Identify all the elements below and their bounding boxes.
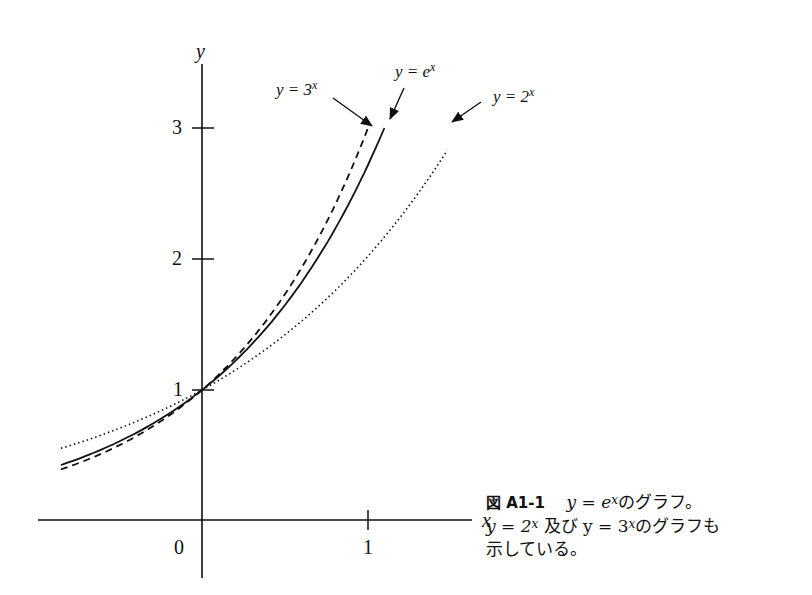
curve-dashed	[61, 128, 368, 470]
arrow-2x	[452, 102, 481, 122]
y-tick-label-3: 3	[172, 116, 182, 139]
annotation-3x: y = 3x	[276, 80, 317, 100]
figure-number: 図 A1-1	[486, 494, 545, 512]
y-axis-label: y	[196, 40, 205, 63]
caption-text-1: のグラフ。	[618, 492, 702, 512]
curve-solid	[61, 128, 385, 465]
caption-eq-2: y = 2	[486, 516, 531, 536]
annotation-2x-exp: x	[529, 85, 534, 99]
caption-eq-1: y = e	[567, 492, 612, 512]
annotation-3x-text: y = 3	[276, 80, 312, 99]
origin-label: 0	[174, 536, 184, 559]
caption-line-1: 図 A1-1 y = exのグラフ。	[486, 491, 720, 515]
annotation-3x-exp: x	[312, 78, 317, 92]
annotation-ex: y = ex	[395, 62, 435, 82]
arrow-ex	[390, 88, 404, 119]
caption-eq-1-exp: x	[611, 493, 618, 507]
curve-dotted	[61, 150, 447, 448]
caption-line-3: 示している。	[486, 538, 720, 561]
caption-line-2: y = 2x 及び y = 3xのグラフも	[486, 515, 720, 538]
caption-text-3: のグラフも	[635, 516, 720, 536]
caption-text-2: 及び y = 3	[538, 516, 628, 536]
figure-caption: 図 A1-1 y = exのグラフ。 y = 2x 及び y = 3xのグラフも…	[486, 491, 720, 561]
annotation-2x: y = 2x	[493, 87, 534, 107]
y-tick-label-2: 2	[172, 247, 182, 270]
annotation-ex-exp: x	[430, 60, 435, 74]
arrow-3x	[333, 98, 372, 126]
annotation-ex-text: y = e	[395, 62, 430, 81]
annotation-2x-text: y = 2	[493, 87, 529, 106]
y-tick-label-1: 1	[173, 378, 183, 401]
x-tick-label-1: 1	[363, 536, 373, 559]
caption-eq-3-exp: x	[629, 517, 636, 531]
caption-eq-2-exp: x	[531, 517, 538, 531]
curves-group	[61, 128, 447, 470]
